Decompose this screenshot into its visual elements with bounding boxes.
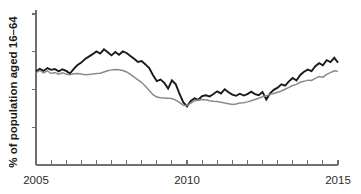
x-axis-tick-label: 2010 — [174, 174, 200, 186]
chart-container: % of population aged 16–64 200520102015 — [0, 0, 361, 194]
x-axis-tick-label: 2005 — [23, 174, 49, 186]
series-line-series-dark — [36, 49, 338, 106]
y-axis-title-group: % of population aged 16–64 — [7, 16, 19, 168]
x-axis-tick-label: 2015 — [325, 174, 351, 186]
x-axis-tick-labels: 200520102015 — [23, 174, 351, 186]
axes — [32, 10, 338, 165]
series-line-series-gray — [36, 70, 338, 106]
data-series — [36, 49, 338, 106]
line-chart: % of population aged 16–64 200520102015 — [0, 0, 361, 194]
y-axis-title: % of population aged 16–64 — [7, 16, 19, 168]
